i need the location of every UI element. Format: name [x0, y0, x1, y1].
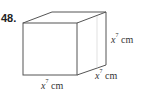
width-label: x7 cm [41, 80, 63, 91]
cube-top-face [23, 12, 106, 23]
height-label: x7 cm [111, 34, 133, 45]
depth-label: x7 cm [95, 70, 117, 81]
cube-front-face [23, 23, 77, 75]
cube-diagram [0, 0, 143, 94]
